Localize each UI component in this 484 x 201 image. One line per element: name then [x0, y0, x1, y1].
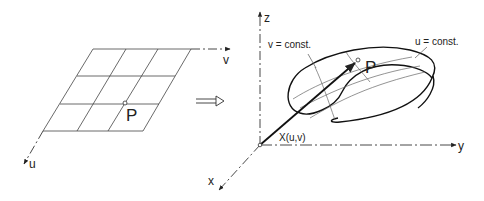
- x-axis-label: x: [208, 174, 214, 188]
- v-axis-label: v: [223, 53, 229, 67]
- position-vector: [260, 63, 355, 145]
- parametric-surface-diagram: v u P z y x: [0, 0, 484, 201]
- surface-space: z y x X(u,v) P: [208, 11, 464, 190]
- position-vector-label: X(u,v): [279, 132, 306, 143]
- x-axis: [219, 145, 260, 190]
- y-axis-label: y: [458, 139, 464, 153]
- parameter-domain: v u P: [24, 49, 230, 171]
- surface-point-p: [356, 58, 360, 62]
- origin-point: [258, 143, 262, 147]
- z-axis-label: z: [264, 11, 270, 25]
- domain-point-p: [123, 101, 127, 105]
- u-const-label: u = const.: [415, 36, 459, 47]
- double-arrow-right-icon: [196, 96, 224, 106]
- surface-outline: [288, 47, 435, 122]
- u-axis-label: u: [29, 157, 36, 171]
- parameter-grid: [43, 49, 191, 131]
- domain-point-p-label: P: [126, 106, 137, 125]
- surface-point-p-label: P: [365, 58, 376, 77]
- v-const-label: v = const.: [268, 39, 311, 50]
